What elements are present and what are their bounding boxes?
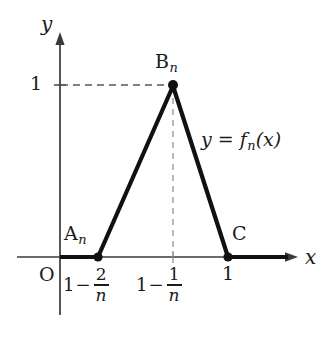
curve-rising-edge bbox=[98, 86, 173, 257]
x-tick-label-b-minus: − bbox=[148, 276, 163, 294]
function-label-equals: = bbox=[218, 128, 234, 150]
function-label-y: y bbox=[201, 128, 212, 150]
function-label: y = fn(x) bbox=[201, 130, 281, 153]
x-tick-label-a-minus: − bbox=[75, 276, 90, 294]
curve-falling-edge bbox=[173, 86, 228, 257]
function-label-f: f bbox=[240, 128, 247, 150]
point-c-marker bbox=[223, 252, 232, 261]
point-a-marker bbox=[93, 252, 102, 261]
x-tick-label-one: 1 bbox=[222, 264, 234, 283]
origin-label: O bbox=[39, 265, 55, 284]
x-tick-label-a-numerator: 2 bbox=[94, 266, 109, 284]
point-label-b-subscript: n bbox=[169, 60, 177, 75]
x-tick-label-a-lead: 1 bbox=[63, 276, 74, 294]
y-tick-label-one: 1 bbox=[30, 74, 42, 93]
x-tick-label-b-fraction: 1 n bbox=[167, 266, 182, 304]
x-tick-label-b-numerator: 1 bbox=[167, 266, 182, 284]
x-tick-label-b: 1 − 1 n bbox=[136, 266, 182, 304]
point-label-b-base: B bbox=[155, 50, 169, 72]
y-axis-label: y bbox=[41, 14, 52, 34]
x-tick-label-a-denominator: n bbox=[94, 286, 109, 304]
point-label-a-base: A bbox=[64, 222, 78, 244]
point-label-a: An bbox=[64, 224, 87, 247]
x-tick-label-b-lead: 1 bbox=[136, 276, 147, 294]
point-label-b: Bn bbox=[155, 52, 178, 75]
point-label-c: C bbox=[232, 224, 247, 243]
x-axis-label: x bbox=[305, 247, 316, 267]
point-label-a-subscript: n bbox=[78, 232, 86, 247]
x-tick-label-a-fraction: 2 n bbox=[94, 266, 109, 304]
x-tick-label-a: 1 − 2 n bbox=[63, 266, 109, 304]
point-b-marker bbox=[168, 80, 178, 90]
function-label-f-subscript: n bbox=[247, 138, 255, 153]
x-tick-label-b-denominator: n bbox=[167, 286, 182, 304]
function-label-argument: (x) bbox=[256, 128, 282, 150]
